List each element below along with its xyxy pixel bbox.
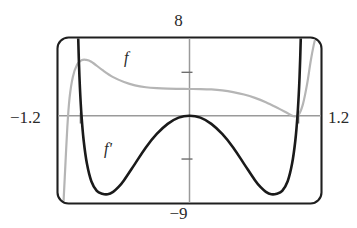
- axis-label-ymin: −9: [0, 205, 357, 222]
- curve-label-f: f: [124, 50, 128, 66]
- graphing-calculator-viewport: 8 −9 −1.2 1.2 f f': [0, 0, 357, 228]
- curve-label-f-prime: f': [104, 141, 112, 157]
- axis-label-xmin: −1.2: [10, 109, 41, 126]
- axis-label-ymax: 8: [0, 12, 357, 29]
- plot-canvas: [0, 0, 357, 228]
- axis-label-xmax: 1.2: [328, 109, 349, 126]
